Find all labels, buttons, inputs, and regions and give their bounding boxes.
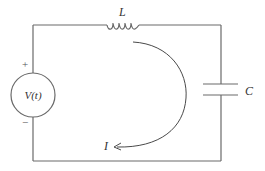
source-plus-sign: + <box>22 58 28 70</box>
capacitor-label: C <box>245 84 254 98</box>
current-arrowhead-icon <box>114 143 121 150</box>
inductor-coil <box>107 23 139 29</box>
lc-circuit-diagram: L C V(t) + − I <box>0 0 265 171</box>
inductor-label: L <box>118 5 126 19</box>
source-minus-sign: − <box>22 116 28 128</box>
current-label: I <box>103 139 109 153</box>
current-arc <box>117 42 186 147</box>
voltage-source-label: V(t) <box>24 89 41 102</box>
